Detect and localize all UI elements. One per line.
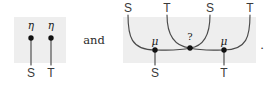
mu-dot-right bbox=[221, 47, 226, 52]
crossing-dot bbox=[187, 45, 192, 50]
right-output-label-s: S bbox=[151, 67, 159, 79]
figure-canvas: η η S T and S T S T μ ? μ S T . bbox=[0, 0, 267, 85]
strand-crossing-to-mu-left bbox=[155, 48, 190, 50]
left-output-label-t: T bbox=[47, 67, 54, 79]
strand-s2-to-crossing bbox=[190, 15, 210, 48]
right-input-label-t1: T bbox=[163, 2, 170, 14]
crossing-question-label: ? bbox=[187, 32, 192, 42]
terminator-period: . bbox=[260, 40, 264, 52]
eta-dot-s bbox=[28, 35, 33, 40]
mu-label-right: μ bbox=[221, 36, 228, 47]
right-input-label-s2: S bbox=[206, 2, 214, 14]
eta-dot-t bbox=[48, 35, 53, 40]
strand-crossing-to-mu-right bbox=[190, 48, 224, 50]
eta-label-t: η bbox=[48, 20, 54, 31]
conjunction-and: and bbox=[83, 35, 105, 47]
mu-label-left: μ bbox=[152, 36, 159, 47]
right-output-label-t: T bbox=[220, 67, 227, 79]
right-input-label-s1: S bbox=[124, 2, 132, 14]
strand-t2-to-mu-right bbox=[224, 15, 250, 50]
eta-label-s: η bbox=[28, 20, 34, 31]
mu-dot-left bbox=[152, 47, 157, 52]
right-input-label-t2: T bbox=[246, 2, 253, 14]
left-output-label-s: S bbox=[27, 67, 35, 79]
